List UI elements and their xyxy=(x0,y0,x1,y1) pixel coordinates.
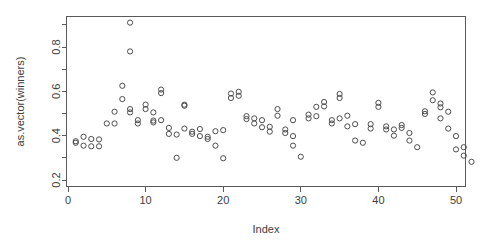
data-point xyxy=(345,113,350,118)
data-point xyxy=(415,145,420,150)
plot-box-frame xyxy=(67,17,466,187)
data-point xyxy=(81,134,86,139)
data-point xyxy=(298,154,303,159)
data-point xyxy=(314,104,319,109)
data-point xyxy=(174,155,179,160)
data-point xyxy=(353,138,358,143)
data-point xyxy=(221,128,226,133)
x-tick-label-10: 10 xyxy=(139,194,151,206)
data-point xyxy=(112,109,117,114)
y-tick-label-0.4: 0.4 xyxy=(50,128,62,143)
data-point xyxy=(159,118,164,123)
data-point xyxy=(81,143,86,148)
data-point xyxy=(391,127,396,132)
data-point xyxy=(345,124,350,129)
data-point xyxy=(283,130,288,135)
data-point xyxy=(290,143,295,148)
data-point xyxy=(407,138,412,143)
data-point xyxy=(151,110,156,115)
x-tick-label-50: 50 xyxy=(450,194,462,206)
data-point xyxy=(259,125,264,130)
x-tick-label-20: 20 xyxy=(217,194,229,206)
data-point xyxy=(135,121,140,126)
data-point xyxy=(89,136,94,141)
data-point xyxy=(96,144,101,149)
data-point xyxy=(252,116,257,121)
data-point xyxy=(290,134,295,139)
data-point xyxy=(112,121,117,126)
data-point xyxy=(213,129,218,134)
data-point xyxy=(127,110,132,115)
x-axis-title: Index xyxy=(253,223,280,235)
data-point xyxy=(104,121,109,126)
data-point xyxy=(306,116,311,121)
x-tick-label-40: 40 xyxy=(372,194,384,206)
data-point xyxy=(213,143,218,148)
data-point xyxy=(391,133,396,138)
data-point xyxy=(127,20,132,25)
data-point xyxy=(430,90,435,95)
data-point xyxy=(438,116,443,121)
data-point xyxy=(275,106,280,111)
data-point xyxy=(174,132,179,137)
y-tick-label-0.6: 0.6 xyxy=(50,84,62,99)
data-point xyxy=(120,83,125,88)
data-point xyxy=(314,114,319,119)
r-scatter-plot-figure: 010203040500.20.40.60.8Indexas.vector(wi… xyxy=(0,0,484,243)
data-point xyxy=(360,140,365,145)
data-point xyxy=(353,122,358,127)
data-point xyxy=(384,127,389,132)
data-point xyxy=(96,137,101,142)
data-points-group xyxy=(73,20,474,164)
data-point xyxy=(197,126,202,131)
x-tick-label-30: 30 xyxy=(295,194,307,206)
data-point xyxy=(166,125,171,130)
y-tick-label-0.8: 0.8 xyxy=(50,39,62,54)
data-point xyxy=(166,131,171,136)
data-point xyxy=(337,116,342,121)
axes-group xyxy=(62,17,466,192)
data-point xyxy=(252,121,257,126)
data-point xyxy=(159,91,164,96)
data-point xyxy=(290,118,295,123)
x-tick-label-0: 0 xyxy=(65,194,71,206)
data-point xyxy=(197,134,202,139)
data-point xyxy=(407,130,412,135)
data-point xyxy=(446,109,451,114)
data-point xyxy=(329,121,334,126)
data-point xyxy=(127,49,132,54)
data-point xyxy=(438,105,443,110)
y-axis-title: as.vector(winners) xyxy=(14,57,26,147)
data-point xyxy=(453,134,458,139)
data-point xyxy=(446,126,451,131)
data-point xyxy=(221,156,226,161)
data-point xyxy=(453,147,458,152)
data-point xyxy=(259,118,264,123)
y-tick-label-0.2: 0.2 xyxy=(50,172,62,187)
data-point xyxy=(182,126,187,131)
plot-canvas: 010203040500.20.40.60.8Indexas.vector(wi… xyxy=(0,0,484,243)
data-point xyxy=(120,96,125,101)
data-point xyxy=(89,144,94,149)
data-point xyxy=(275,113,280,118)
data-point xyxy=(430,98,435,103)
data-point xyxy=(469,159,474,164)
